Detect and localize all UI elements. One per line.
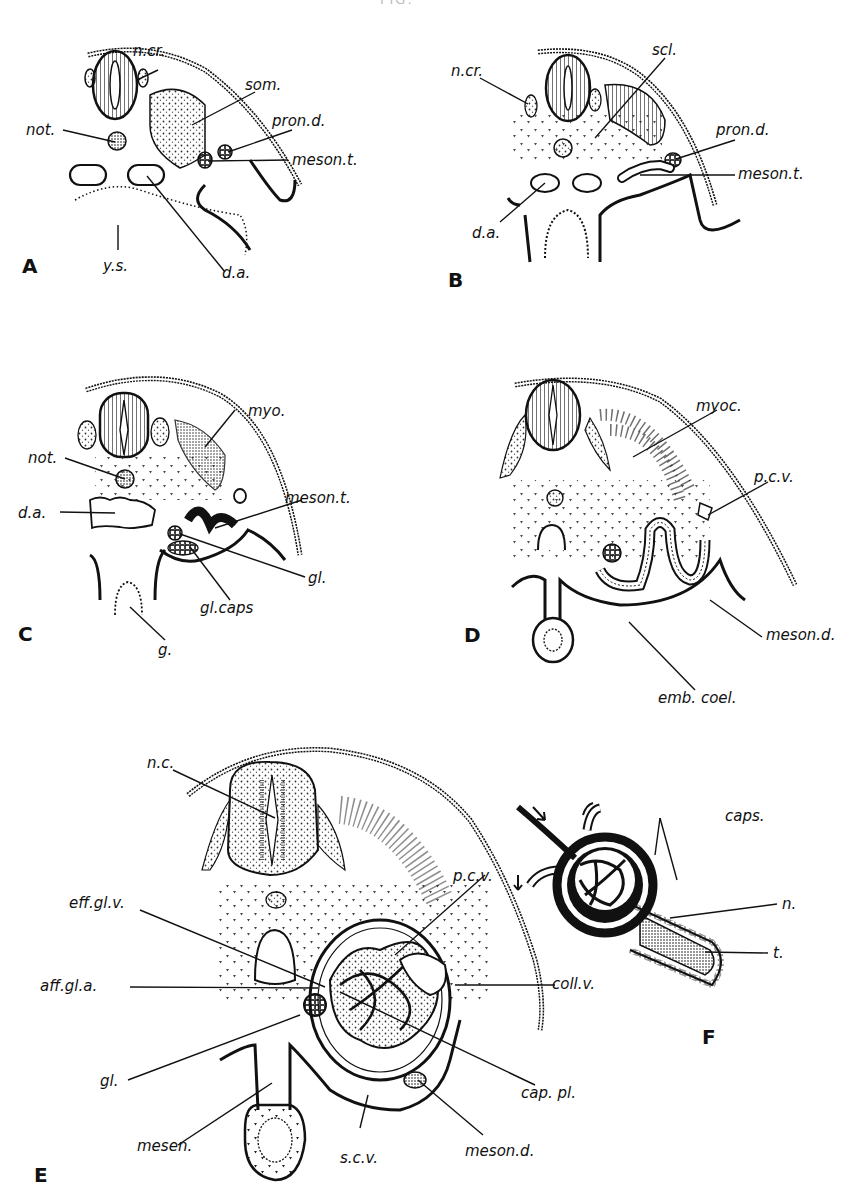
figure-plate: FIG.	[0, 0, 864, 1193]
label-c-glomerular-capsule: gl.caps	[200, 600, 253, 616]
panel-b-drawing	[480, 51, 740, 262]
label-e-mesentery: mesen.	[137, 1138, 192, 1154]
label-a-somite: som.	[245, 77, 281, 93]
label-e-subcardinal-vein: s.c.v.	[340, 1150, 378, 1166]
panel-letter-a: A	[22, 254, 37, 278]
figure-artwork	[0, 0, 864, 1193]
label-e-neural-canal: n.c.	[147, 755, 174, 771]
panel-letter-b: B	[448, 268, 463, 292]
panel-letter-c: C	[18, 622, 33, 646]
label-a-notochord: not.	[26, 122, 55, 138]
label-f-tubule: t.	[773, 945, 784, 961]
label-e-mesonephric-duct: meson.d.	[465, 1143, 534, 1159]
label-a-dorsal-aorta: d.a.	[222, 265, 250, 281]
label-e-collecting-vein: coll.v.	[552, 976, 595, 992]
label-c-gut: g.	[158, 642, 172, 658]
label-c-mesonephric-tubule: meson.t.	[285, 490, 351, 506]
label-a-yolk-sac: y.s.	[103, 258, 128, 274]
panel-f-drawing	[514, 803, 777, 985]
label-a-pronephric-duct: pron.d.	[272, 113, 325, 129]
label-d-myocoel: myoc.	[696, 398, 742, 414]
label-e-capillary-plexus: cap. pl.	[521, 1085, 576, 1101]
label-d-posterior-cardinal-vein: p.c.v.	[754, 469, 794, 485]
label-d-embryonic-coelom: emb. coel.	[658, 690, 737, 706]
label-b-dorsal-aorta: d.a.	[472, 225, 500, 241]
label-c-myotome: myo.	[248, 403, 285, 419]
panel-letter-f: F	[702, 1025, 716, 1049]
label-e-glomerulus: gl.	[100, 1073, 118, 1089]
panel-d-drawing	[500, 380, 795, 690]
label-b-neural-crest: n.cr.	[451, 63, 483, 79]
label-e-posterior-cardinal-vein: p.c.v.	[453, 868, 493, 884]
label-d-mesonephric-duct: meson.d.	[766, 627, 835, 643]
panel-letter-e: E	[34, 1163, 48, 1187]
panel-e-drawing	[128, 750, 555, 1180]
label-c-notochord: not.	[28, 450, 57, 466]
label-f-neck: n.	[782, 896, 796, 912]
panel-letter-d: D	[464, 623, 481, 647]
label-c-glomerulus: gl.	[308, 570, 326, 586]
label-f-capsule: caps.	[725, 808, 765, 824]
label-b-sclerotome: scl.	[652, 42, 677, 58]
label-b-pronephric-duct: pron.d.	[716, 122, 769, 138]
label-b-mesonephric-tubule: meson.t.	[738, 166, 804, 182]
label-e-efferent-glomerular-vessel: eff.gl.v.	[69, 895, 125, 911]
label-a-mesonephric-tubule: meson.t.	[292, 152, 358, 168]
label-a-neural-crest: n.cr.	[133, 43, 165, 59]
label-e-afferent-glomerular-artery: aff.gl.a.	[40, 978, 97, 994]
label-c-dorsal-aorta: d.a.	[18, 505, 46, 521]
